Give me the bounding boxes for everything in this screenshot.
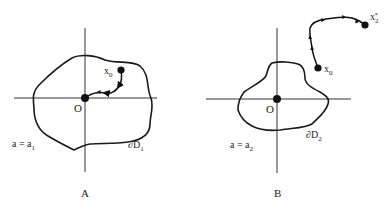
origin-label: O [74, 102, 82, 114]
arrowhead-icon [310, 46, 314, 50]
start-point-x0 [117, 66, 124, 73]
start-point-x0 [314, 64, 321, 71]
parameter-label: a = a1 [12, 138, 36, 152]
panel-caption: A [81, 187, 89, 199]
trajectory-b [310, 17, 365, 68]
panel-b: x0 x2* O a = a2 ∂D2 B [206, 11, 379, 200]
panel-a: x0 O a = a1 ∂D1 A [12, 28, 157, 199]
origin-point [81, 94, 89, 102]
origin-point [273, 95, 281, 103]
domain-boundary [238, 62, 329, 130]
parameter-label: a = a2 [230, 139, 254, 153]
diagram-canvas: x0 O a = a1 ∂D1 A x0 x2* O a = a2 ∂D2 B [0, 0, 388, 210]
arrowhead-icon [308, 35, 312, 39]
panel-caption: B [274, 187, 281, 199]
boundary-label: ∂D1 [128, 139, 144, 153]
start-label: x0 [324, 63, 333, 77]
end-point-x2-star [361, 21, 368, 28]
boundary-label: ∂D2 [306, 129, 322, 143]
start-label: x0 [104, 65, 113, 79]
arrowhead-icon [342, 15, 346, 19]
domain-boundary [33, 56, 152, 150]
end-label: x2* [370, 11, 379, 25]
origin-label: O [266, 103, 274, 115]
